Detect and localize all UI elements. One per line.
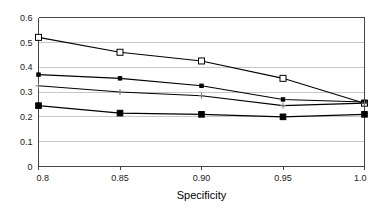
y-tick-label: 0.6: [20, 13, 33, 23]
marker-filled-square: [117, 110, 123, 116]
line-chart: 00.10.20.30.40.50.60.80.850.900.951.0Spe…: [0, 0, 382, 211]
x-axis-title: Specificity: [177, 189, 227, 201]
marker-filled-square: [362, 112, 368, 118]
y-tick-label: 0.2: [20, 112, 33, 122]
x-tick-label: 1.0: [354, 173, 367, 183]
x-tick-label: 0.8: [37, 173, 50, 183]
gridlines-group: [39, 18, 365, 142]
series-group: [36, 34, 368, 119]
marker-small-square: [200, 84, 203, 87]
marker-small-square: [37, 73, 40, 76]
chart-container: 00.10.20.30.40.50.60.80.850.900.951.0Spe…: [0, 0, 382, 211]
marker-open-square: [280, 75, 286, 81]
marker-filled-square: [280, 114, 286, 120]
x-tick-label: 0.95: [274, 173, 292, 183]
marker-open-square: [199, 58, 205, 64]
x-tick-label: 0.90: [193, 173, 211, 183]
marker-small-square: [118, 77, 121, 80]
marker-filled-square: [199, 112, 205, 118]
y-tick-label: 0.1: [20, 137, 33, 147]
marker-plus: [199, 93, 205, 99]
marker-plus: [36, 83, 42, 89]
marker-filled-square: [36, 103, 42, 109]
y-tick-label: 0.3: [20, 87, 33, 97]
marker-open-square: [36, 34, 42, 40]
x-tick-label: 0.85: [111, 173, 129, 183]
y-tick-label: 0.4: [20, 62, 33, 72]
marker-plus: [117, 89, 123, 95]
y-tick-label: 0: [27, 162, 32, 172]
y-tick-label: 0.5: [20, 38, 33, 48]
x-tick-labels-group: 0.80.850.900.951.0: [37, 167, 367, 183]
marker-small-square: [281, 98, 284, 101]
y-tick-labels-group: 00.10.20.30.40.50.6: [20, 13, 33, 172]
marker-plus: [280, 103, 286, 109]
marker-open-square: [117, 49, 123, 55]
